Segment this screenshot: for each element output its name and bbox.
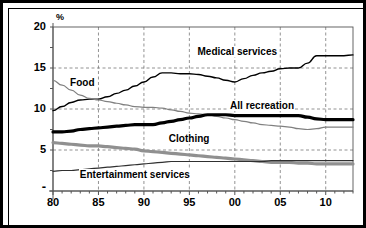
y-axis-label: 5	[24, 143, 46, 155]
x-axis-label: 90	[132, 196, 156, 208]
x-axis-label: 95	[177, 196, 201, 208]
y-axis-label: 10	[24, 102, 46, 114]
x-axis-label: 10	[314, 196, 338, 208]
series-annotation-entertainment-services: Entertainment services	[79, 169, 191, 180]
y-axis-label: 20	[24, 20, 46, 32]
series-annotation-food: Food	[69, 77, 95, 88]
series-annotation-medical-services: Medical services	[197, 46, 279, 57]
line-chart	[9, 9, 365, 227]
chart-inner-frame: 2015105-80859095000510%Medical servicesF…	[8, 8, 364, 226]
x-axis-label: 80	[41, 196, 65, 208]
series-annotation-all-recreation: All recreation	[229, 100, 295, 111]
series-annotation-clothing: Clothing	[168, 133, 211, 144]
series-line-medical-services	[53, 55, 353, 111]
y-axis-unit-label: %	[56, 12, 64, 22]
y-axis-label: -	[24, 179, 46, 194]
y-axis-label: 15	[24, 61, 46, 73]
chart-frame: 2015105-80859095000510%Medical servicesF…	[0, 0, 366, 228]
x-axis-label: 85	[86, 196, 110, 208]
series-line-food	[53, 80, 353, 129]
x-axis-label: 05	[268, 196, 292, 208]
x-axis-label: 00	[223, 196, 247, 208]
